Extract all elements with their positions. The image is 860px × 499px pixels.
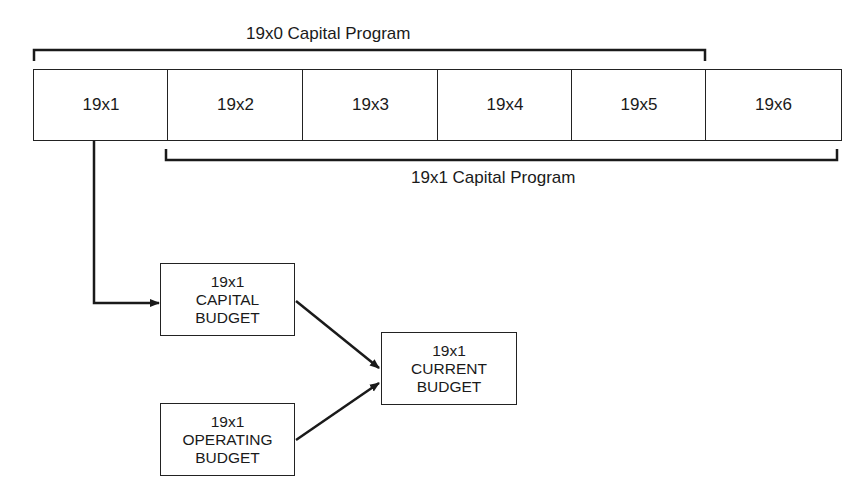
year-label: 19x5 <box>621 95 658 115</box>
box-line: BUDGET <box>195 309 260 327</box>
operating-budget-box: 19x1 OPERATING BUDGET <box>160 403 295 476</box>
box-line: 19x1 <box>432 342 466 360</box>
box-line: BUDGET <box>417 378 482 396</box>
arrow-operating-to-current <box>296 383 379 440</box>
year-label: 19x2 <box>217 95 254 115</box>
year-cell-19x1: 19x1 <box>33 69 169 141</box>
top-bracket-label: 19x0 Capital Program <box>246 24 410 44</box>
box-line: BUDGET <box>195 449 260 467</box>
box-line: 19x1 <box>211 413 245 431</box>
year-cell-19x6: 19x6 <box>705 69 842 141</box>
year-label: 19x1 <box>83 95 120 115</box>
bottom-bracket-label: 19x1 Capital Program <box>411 168 575 188</box>
year-cell-19x3: 19x3 <box>302 69 439 141</box>
bottom-bracket <box>166 149 837 160</box>
arrow-capital-to-current <box>296 301 379 368</box>
box-line: 19x1 <box>211 273 245 291</box>
year-label: 19x4 <box>487 95 524 115</box>
current-budget-box: 19x1 CURRENT BUDGET <box>381 332 517 405</box>
arrow-19x1-to-capital <box>94 141 159 303</box>
year-label: 19x6 <box>755 95 792 115</box>
box-line: OPERATING <box>182 431 272 449</box>
year-label: 19x3 <box>352 95 389 115</box>
capital-budget-box: 19x1 CAPITAL BUDGET <box>160 263 295 336</box>
year-cell-19x4: 19x4 <box>437 69 573 141</box>
box-line: CURRENT <box>411 360 487 378</box>
year-cell-19x2: 19x2 <box>167 69 304 141</box>
top-bracket <box>34 50 705 61</box>
box-line: CAPITAL <box>196 291 259 309</box>
year-cell-19x5: 19x5 <box>571 69 707 141</box>
